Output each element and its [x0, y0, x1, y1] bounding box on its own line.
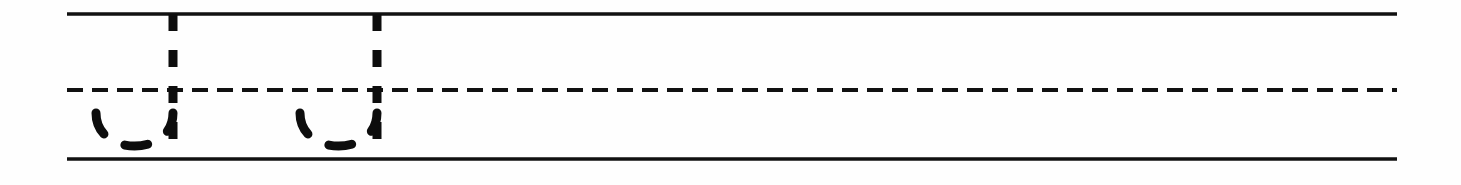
trace-letter-u-2: [300, 14, 377, 146]
trace-bowl-2: [300, 113, 377, 146]
handwriting-practice-row: [0, 0, 1461, 185]
trace-bowl-1: [96, 113, 173, 146]
tracing-letters-group: [96, 14, 377, 146]
trace-letter-u-1: [96, 14, 173, 146]
worksheet-canvas: [0, 0, 1461, 185]
rule-lines-group: [67, 14, 1397, 159]
